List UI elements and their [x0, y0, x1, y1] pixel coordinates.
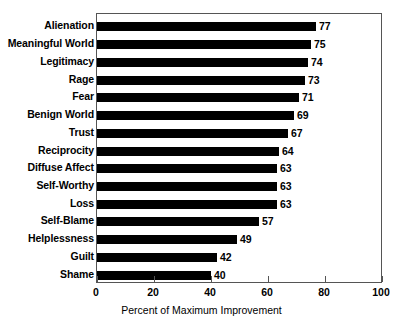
category-label: Alienation	[0, 20, 94, 31]
bar	[97, 93, 299, 102]
bar-value-label: 71	[302, 91, 314, 103]
bar-row: 49	[97, 235, 383, 244]
bar	[97, 40, 311, 49]
bar	[97, 235, 237, 244]
bar-row: 57	[97, 217, 383, 226]
bar-row: 69	[97, 111, 383, 120]
bar	[97, 76, 305, 85]
bar-value-label: 64	[282, 145, 294, 157]
category-label: Guilt	[0, 251, 94, 262]
category-label: Benign World	[0, 109, 94, 120]
bar-value-label: 67	[291, 127, 303, 139]
category-label: Legitimacy	[0, 56, 94, 67]
bar	[97, 182, 277, 191]
category-label: Reciprocity	[0, 145, 94, 156]
bar	[97, 217, 259, 226]
bar-value-label: 75	[314, 38, 326, 50]
x-axis-tick-label: 60	[261, 286, 273, 298]
bar-row: 40	[97, 271, 383, 280]
bar-row: 75	[97, 40, 383, 49]
bar	[97, 58, 308, 67]
category-label: Self-Blame	[0, 215, 94, 226]
x-axis-tick	[268, 276, 269, 282]
category-label: Shame	[0, 269, 94, 280]
bar-row: 63	[97, 200, 383, 209]
bar	[97, 111, 294, 120]
x-axis-tick	[211, 276, 212, 282]
bar	[97, 22, 316, 31]
bar-value-label: 63	[280, 180, 292, 192]
category-label: Meaningful World	[0, 38, 94, 49]
bar-value-label: 57	[262, 215, 274, 227]
x-axis-tick-label: 20	[147, 286, 159, 298]
bar-row: 71	[97, 93, 383, 102]
category-label: Diffuse Affect	[0, 162, 94, 173]
category-label: Rage	[0, 74, 94, 85]
x-axis-tick	[154, 276, 155, 282]
bar-value-label: 42	[220, 251, 232, 263]
bar	[97, 253, 217, 262]
category-label: Trust	[0, 127, 94, 138]
bar-row: 63	[97, 182, 383, 191]
category-label: Self-Worthy	[0, 180, 94, 191]
category-label: Helplessness	[0, 233, 94, 244]
bar-row: 63	[97, 164, 383, 173]
bar-value-label: 40	[214, 269, 226, 281]
x-axis-tick-label: 0	[93, 286, 99, 298]
bar-value-label: 77	[319, 20, 331, 32]
bar-chart: AlienationMeaningful WorldLegitimacyRage…	[0, 0, 403, 327]
x-axis-tick	[97, 276, 98, 282]
bar	[97, 200, 277, 209]
bar-value-label: 49	[240, 233, 252, 245]
bar-value-label: 73	[308, 74, 320, 86]
bar-value-label: 63	[280, 162, 292, 174]
x-axis-tick	[325, 276, 326, 282]
x-axis-tick-label: 100	[372, 286, 390, 298]
category-axis: AlienationMeaningful WorldLegitimacyRage…	[0, 13, 94, 283]
x-axis-tick-label: 40	[204, 286, 216, 298]
bar-value-label: 63	[280, 198, 292, 210]
bar	[97, 164, 277, 173]
bar	[97, 147, 279, 156]
category-label: Loss	[0, 198, 94, 209]
bar	[97, 129, 288, 138]
x-axis-tick	[382, 276, 383, 282]
bar-row: 42	[97, 253, 383, 262]
plot-area: 777574737169676463636357494240	[96, 13, 382, 283]
x-axis-tick-label: 80	[318, 286, 330, 298]
bar-row: 64	[97, 147, 383, 156]
x-axis-title: Percent of Maximum Improvement	[0, 304, 403, 316]
bar-row: 74	[97, 58, 383, 67]
bar-row: 77	[97, 22, 383, 31]
bar-value-label: 74	[311, 56, 323, 68]
bar-row: 67	[97, 129, 383, 138]
category-label: Fear	[0, 91, 94, 102]
bar-value-label: 69	[297, 109, 309, 121]
bar-row: 73	[97, 76, 383, 85]
